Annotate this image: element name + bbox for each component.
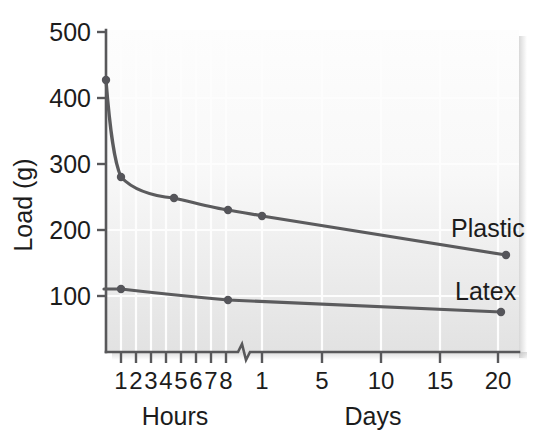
y-tick-label-200: 200: [49, 216, 91, 244]
x-axis-days-tick-labels: 1 5 10 15 20: [255, 367, 511, 394]
latex-data-point: [497, 308, 505, 316]
plastic-data-point: [170, 194, 178, 202]
y-tick-label-300: 300: [49, 150, 91, 178]
x-tick-label-hour-6: 6: [189, 367, 202, 394]
x-tick-label-hour-7: 7: [204, 367, 217, 394]
load-vs-time-line-chart: 500 400 300 200 100 Load (g): [0, 0, 553, 440]
plastic-data-point: [117, 173, 125, 181]
latex-data-point: [224, 296, 232, 304]
x-axis-title-days: Days: [345, 402, 402, 430]
x-tick-label-day-10: 10: [368, 367, 395, 394]
x-tick-label-day-20: 20: [485, 367, 512, 394]
y-tick-label-400: 400: [49, 84, 91, 112]
plastic-data-point: [224, 206, 232, 214]
chart-figure: 500 400 300 200 100 Load (g): [0, 0, 553, 440]
series-label-latex: Latex: [455, 277, 517, 305]
x-tick-label-hour-8: 8: [219, 367, 232, 394]
x-tick-label-hour-1: 1: [114, 367, 127, 394]
x-tick-label-day-1: 1: [255, 367, 268, 394]
x-tick-label-hour-2: 2: [129, 367, 142, 394]
x-axis-title-hours: Hours: [142, 402, 209, 430]
plastic-data-point: [258, 212, 266, 220]
x-tick-label-day-15: 15: [427, 367, 454, 394]
latex-data-point: [117, 285, 125, 293]
series-label-plastic: Plastic: [451, 214, 525, 242]
plastic-data-point: [502, 251, 510, 259]
y-tick-label-500: 500: [49, 18, 91, 46]
x-tick-label-hour-5: 5: [174, 367, 187, 394]
y-axis-tick-labels: 500 400 300 200 100: [49, 18, 91, 310]
plastic-data-point: [102, 76, 110, 84]
x-tick-label-day-5: 5: [315, 367, 328, 394]
x-tick-label-hour-3: 3: [144, 367, 157, 394]
y-tick-label-100: 100: [49, 282, 91, 310]
x-axis-hours-tick-labels: 1 2 3 4 5 6 7 8: [114, 367, 232, 394]
x-tick-label-hour-4: 4: [159, 367, 172, 394]
y-axis-title: Load (g): [9, 158, 37, 251]
